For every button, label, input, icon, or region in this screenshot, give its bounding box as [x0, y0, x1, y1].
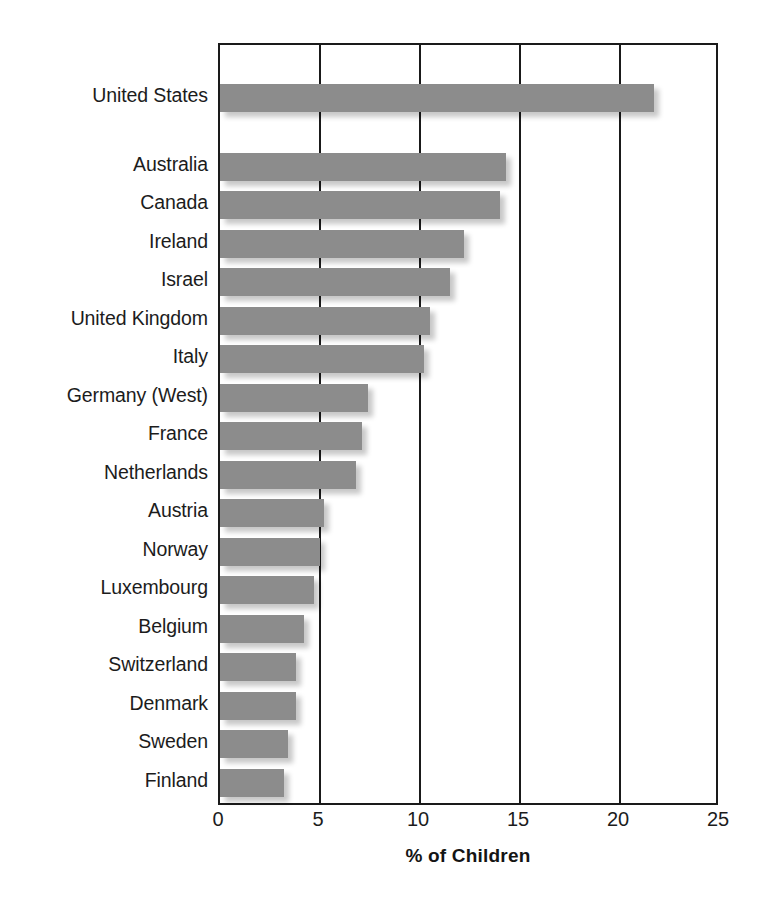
bar — [220, 653, 296, 681]
bar — [220, 191, 500, 219]
bar — [220, 461, 356, 489]
category-label: United States — [0, 86, 208, 106]
category-label: Sweden — [0, 732, 208, 752]
plot-area — [218, 43, 718, 805]
bar — [220, 576, 314, 604]
bar — [220, 538, 320, 566]
bar — [220, 769, 284, 797]
category-label: Australia — [0, 155, 208, 175]
category-label: Italy — [0, 347, 208, 367]
category-label: Norway — [0, 540, 208, 560]
bars-layer — [220, 45, 716, 803]
category-label: Belgium — [0, 617, 208, 637]
bar — [220, 692, 296, 720]
category-label: France — [0, 424, 208, 444]
bar — [220, 307, 430, 335]
bar — [220, 230, 464, 258]
x-tick-label: 20 — [607, 809, 629, 829]
bar — [220, 730, 288, 758]
x-tick-label: 15 — [507, 809, 529, 829]
category-label: United Kingdom — [0, 309, 208, 329]
category-label: Finland — [0, 771, 208, 791]
bar — [220, 153, 506, 181]
category-label: Switzerland — [0, 655, 208, 675]
bar — [220, 84, 654, 112]
x-tick-label: 25 — [707, 809, 729, 829]
x-axis-title: % of Children — [218, 845, 718, 867]
bar — [220, 615, 304, 643]
category-label: Denmark — [0, 694, 208, 714]
x-tick-label: 0 — [212, 809, 223, 829]
category-label: Germany (West) — [0, 386, 208, 406]
x-axis-ticks: 0510152025 — [218, 805, 718, 845]
category-label-column: United StatesAustraliaCanadaIrelandIsrae… — [0, 0, 208, 918]
category-label: Austria — [0, 501, 208, 521]
category-label: Canada — [0, 193, 208, 213]
bar — [220, 345, 424, 373]
bar-chart: United StatesAustraliaCanadaIrelandIsrae… — [0, 0, 758, 918]
category-label: Netherlands — [0, 463, 208, 483]
bar — [220, 384, 368, 412]
x-tick-label: 10 — [407, 809, 429, 829]
category-label: Israel — [0, 270, 208, 290]
bar — [220, 268, 450, 296]
x-tick-label: 5 — [312, 809, 323, 829]
category-label: Luxembourg — [0, 578, 208, 598]
category-label: Ireland — [0, 232, 208, 252]
bar — [220, 499, 324, 527]
bar — [220, 422, 362, 450]
